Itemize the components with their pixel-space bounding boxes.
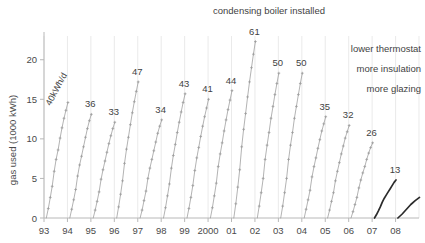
series-line-2006 (351, 143, 373, 218)
x-tick-label: 99 (179, 225, 190, 236)
y-axis-ticks: 05101520 (26, 54, 44, 223)
series-label-2001: 61 (249, 26, 260, 37)
x-tick-label: 04 (297, 225, 308, 236)
series-value-labels: 40kWh/d3633473443414461505035322613 (44, 26, 401, 175)
series-label-1993: 40kWh/d (44, 71, 70, 107)
x-tick-label: 94 (62, 225, 73, 236)
annotation-more-glazing: more glazing (367, 83, 421, 94)
y-axis-title: gas used (1000 kWh) (7, 95, 18, 185)
x-tick-label: 93 (39, 225, 50, 236)
series-label-2007: 13 (390, 164, 401, 175)
x-axis-ticks: 9394959697989920000102030405060708 (39, 218, 401, 236)
series-line-2008 (398, 197, 420, 218)
y-tick-label: 20 (26, 54, 37, 65)
annotation-condensing-boiler: condensing boiler installed (213, 5, 325, 16)
x-tick-label: 02 (250, 225, 261, 236)
series-label-2006: 26 (366, 127, 377, 138)
x-tick-label: 01 (226, 225, 237, 236)
series-label-2000: 44 (226, 75, 237, 86)
y-tick-label: 10 (26, 133, 37, 144)
chart-annotations: condensing boiler installedlower thermos… (213, 5, 421, 94)
x-tick-label: 2000 (197, 225, 218, 236)
annotation-lower-thermostat: lower thermostat (351, 43, 422, 54)
series-label-1997: 34 (155, 104, 166, 115)
x-tick-label: 96 (109, 225, 120, 236)
series-line-1997 (140, 120, 162, 218)
series-line-2004 (304, 117, 326, 218)
gas-usage-chart: 05101520 9394959697989920000102030405060… (0, 0, 425, 243)
series-markers (47, 40, 374, 213)
x-tick-label: 06 (343, 225, 354, 236)
chart-canvas: 05101520 9394959697989920000102030405060… (0, 0, 425, 243)
series-label-1995: 33 (108, 106, 119, 117)
x-tick-label: 07 (367, 225, 378, 236)
series-line-1996 (117, 82, 139, 218)
series-label-1998: 43 (179, 78, 190, 89)
series-label-2003: 50 (296, 57, 307, 68)
series-label-2002: 50 (273, 57, 284, 68)
series-line-2003 (281, 73, 303, 218)
series-line-1995 (93, 122, 115, 218)
y-tick-label: 15 (26, 94, 37, 105)
y-tick-label: 5 (32, 173, 37, 184)
series-label-2004: 35 (319, 101, 330, 112)
series-line-2007 (375, 180, 397, 218)
series-line-1994 (70, 114, 92, 218)
x-tick-label: 08 (390, 225, 401, 236)
series-line-1998 (164, 94, 186, 218)
series-line-2002 (257, 73, 279, 218)
y-tick-label: 0 (32, 213, 37, 224)
x-tick-label: 97 (132, 225, 143, 236)
series-label-2005: 32 (343, 109, 354, 120)
series-line-1999 (187, 99, 209, 218)
annotation-more-insulation: more insulation (357, 63, 421, 74)
series-label-1996: 47 (132, 66, 143, 77)
series-label-1999: 41 (202, 83, 213, 94)
x-tick-label: 05 (320, 225, 331, 236)
series-line-1993 (46, 103, 68, 219)
x-tick-label: 03 (273, 225, 284, 236)
x-tick-label: 95 (86, 225, 97, 236)
series-label-1994: 36 (85, 98, 96, 109)
series-line-2005 (328, 125, 350, 218)
x-tick-label: 98 (156, 225, 167, 236)
